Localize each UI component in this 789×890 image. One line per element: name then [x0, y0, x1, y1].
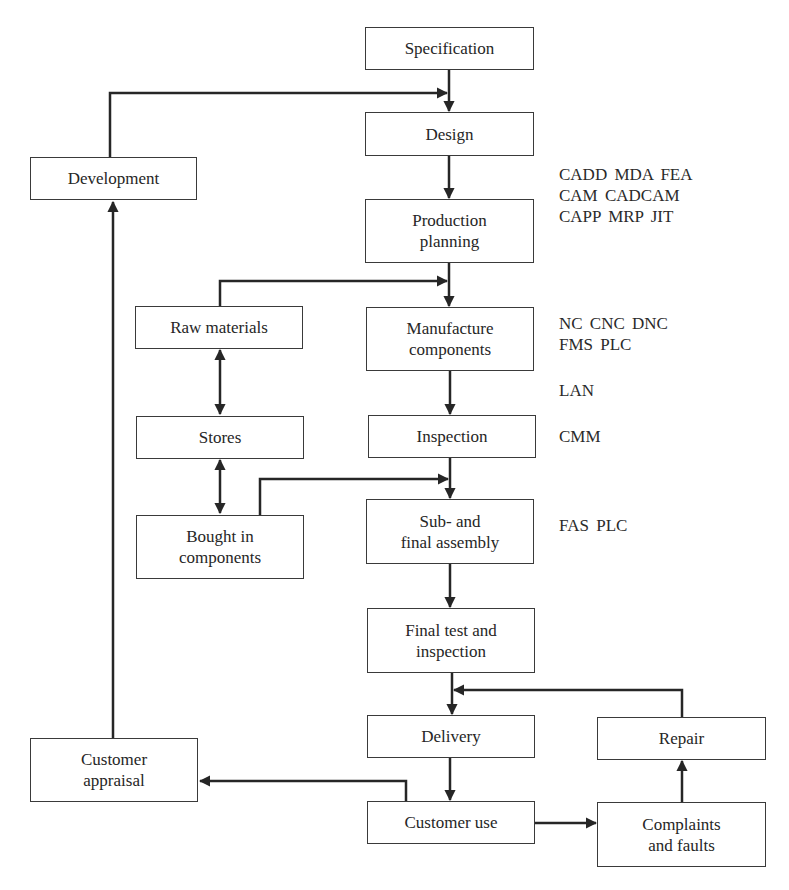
- arrow-repair-to-delivery: [454, 690, 682, 717]
- box-complaints-faults: Complaints and faults: [597, 802, 766, 867]
- tech-label-design-planning: CADD MDA FEA CAM CADCAM CAPP MRP JIT: [559, 164, 693, 227]
- box-label: Repair: [659, 728, 704, 749]
- tech-label-inspection: CMM: [559, 426, 601, 447]
- tech-label-manufacture: NC CNC DNC FMS PLC: [559, 313, 668, 355]
- box-stores: Stores: [136, 416, 304, 459]
- box-label: Stores: [199, 427, 242, 448]
- tech-label-assembly: FAS PLC: [559, 515, 627, 536]
- box-label: Design: [425, 124, 473, 145]
- box-label: Manufacture components: [407, 318, 494, 360]
- box-design: Design: [365, 112, 534, 156]
- box-bought-in-components: Bought in components: [136, 515, 304, 579]
- box-label: Development: [68, 168, 160, 189]
- box-label: Delivery: [421, 726, 480, 747]
- box-label: Bought in components: [179, 526, 261, 568]
- box-label: Customer appraisal: [81, 749, 147, 791]
- box-label: Production planning: [412, 210, 487, 252]
- box-development: Development: [30, 157, 197, 200]
- box-inspection: Inspection: [368, 415, 536, 458]
- box-sub-final-assembly: Sub- and final assembly: [366, 499, 534, 564]
- box-manufacture-components: Manufacture components: [366, 307, 534, 371]
- arrow-raw-materials-to-manufacture: [220, 281, 447, 306]
- box-label: Specification: [405, 38, 495, 59]
- box-label: Sub- and final assembly: [401, 511, 500, 553]
- box-label: Complaints and faults: [642, 814, 720, 856]
- box-delivery: Delivery: [367, 715, 535, 758]
- box-customer-appraisal: Customer appraisal: [30, 738, 198, 802]
- manufacturing-flowchart: Specification Design Production planning…: [0, 0, 789, 890]
- box-customer-use: Customer use: [367, 801, 535, 844]
- box-repair: Repair: [597, 717, 766, 760]
- box-label: Customer use: [404, 812, 497, 833]
- arrow-customer-use-to-appraisal: [200, 781, 406, 801]
- box-label: Final test and inspection: [405, 620, 497, 662]
- box-label: Inspection: [417, 426, 488, 447]
- box-label: Raw materials: [170, 317, 268, 338]
- box-production-planning: Production planning: [365, 199, 534, 263]
- box-raw-materials: Raw materials: [135, 306, 303, 349]
- tech-label-network: LAN: [559, 380, 594, 401]
- box-final-test-inspection: Final test and inspection: [367, 608, 535, 673]
- box-specification: Specification: [365, 27, 534, 70]
